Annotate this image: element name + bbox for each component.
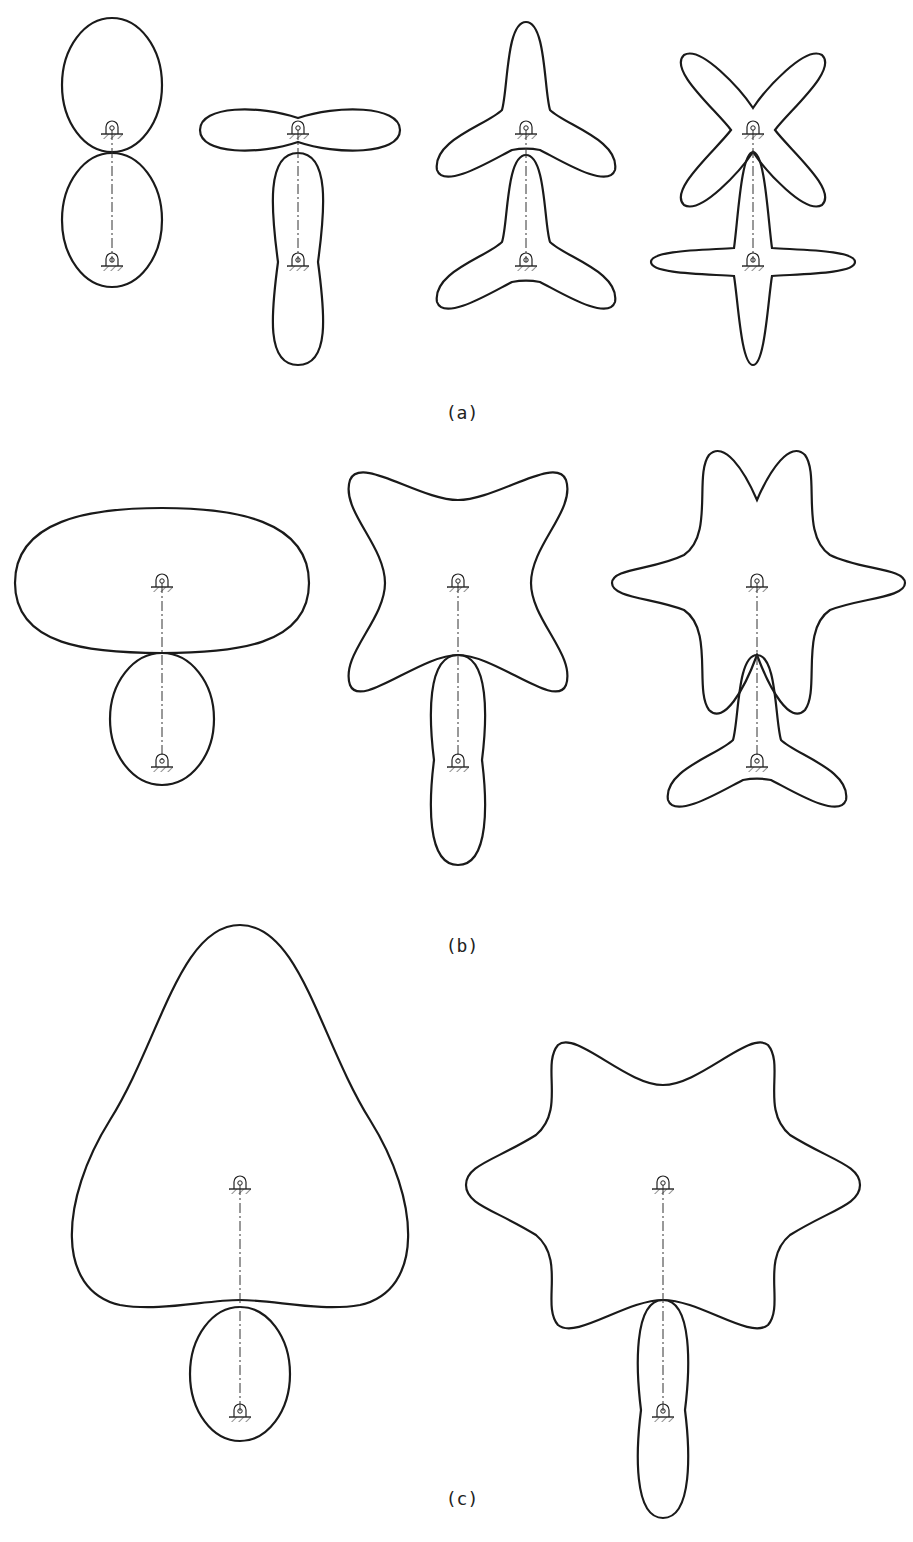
gear-pair-b3 [612, 451, 905, 807]
gear-pair-c1 [72, 925, 408, 1441]
label-a: (a) [446, 402, 479, 423]
label-c: (c) [446, 1488, 479, 1509]
pivot-icons [101, 121, 768, 1422]
gear-pitch-curves-diagram [0, 0, 913, 1542]
gear-pair-a2 [200, 109, 400, 365]
label-b: (b) [446, 935, 479, 956]
